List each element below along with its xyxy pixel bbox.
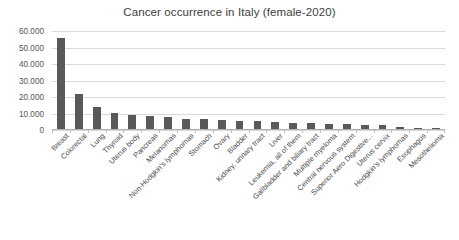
bar[interactable] xyxy=(128,115,136,129)
bar[interactable] xyxy=(93,107,101,129)
y-axis-tick-label: 30.000 xyxy=(19,76,44,85)
bar[interactable] xyxy=(164,117,172,129)
x-axis-labels: BreastColorectalLungThyroidUterus bodyPa… xyxy=(52,132,459,240)
bar[interactable] xyxy=(271,122,279,129)
y-axis-tick-label: 50.000 xyxy=(19,43,44,52)
bar[interactable] xyxy=(57,38,65,129)
bar[interactable] xyxy=(236,121,244,129)
bar[interactable] xyxy=(218,120,226,129)
bar[interactable] xyxy=(146,116,154,129)
bar[interactable] xyxy=(75,94,83,129)
y-axis-tick-label: 60.000 xyxy=(19,27,44,36)
x-axis-line xyxy=(52,129,445,130)
bars-group xyxy=(52,31,445,130)
y-axis-tick-label: 10.000 xyxy=(19,109,44,118)
y-axis-tick-label: 20.000 xyxy=(19,93,44,102)
y-axis-tick-label: 0 xyxy=(39,126,44,135)
plot-area xyxy=(52,31,445,130)
bar[interactable] xyxy=(182,119,190,129)
y-axis-tick-label: 40.000 xyxy=(19,60,44,69)
bar[interactable] xyxy=(254,121,262,129)
y-axis: 60.00050.00040.00030.00020.00010.0000 xyxy=(0,31,48,130)
bar[interactable] xyxy=(111,113,119,130)
bar[interactable] xyxy=(200,119,208,129)
bar-chart: Cancer occurrence in Italy (female-2020)… xyxy=(0,0,459,240)
chart-title: Cancer occurrence in Italy (female-2020) xyxy=(0,6,459,18)
